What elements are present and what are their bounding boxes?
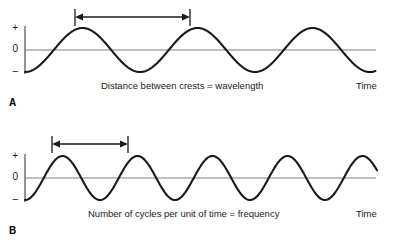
y-tick-zero-a: 0 xyxy=(4,44,18,54)
wavelength-measure-arrow-a xyxy=(75,9,190,26)
cycle-measure-arrow-b xyxy=(52,136,128,153)
panel-b-plot xyxy=(0,124,396,248)
panel-a-plot xyxy=(0,0,396,124)
y-tick-plus-a: + xyxy=(4,23,18,33)
panel-label-a: A xyxy=(9,97,16,108)
arrow-head-left-b xyxy=(52,140,60,147)
panel-b: + 0 – Number of cycles per unit of time … xyxy=(0,124,396,248)
arrow-head-right-a xyxy=(182,13,190,20)
y-tick-plus-b: + xyxy=(4,151,18,161)
arrow-head-right-b xyxy=(120,140,128,147)
caption-a: Distance between crests = wavelength xyxy=(101,80,263,91)
wave-diagram-figure: + 0 – Distance between crests = waveleng… xyxy=(0,0,396,248)
x-axis-label-a: Time xyxy=(356,80,377,91)
panel-label-b: B xyxy=(9,225,16,236)
arrow-head-left-a xyxy=(75,13,83,20)
caption-b: Number of cycles per unit of time = freq… xyxy=(88,208,279,219)
x-axis-label-b: Time xyxy=(356,208,377,219)
panel-a: + 0 – Distance between crests = waveleng… xyxy=(0,0,396,124)
y-tick-zero-b: 0 xyxy=(4,172,18,182)
y-tick-minus-b: – xyxy=(4,194,18,204)
y-tick-minus-a: – xyxy=(4,66,18,76)
